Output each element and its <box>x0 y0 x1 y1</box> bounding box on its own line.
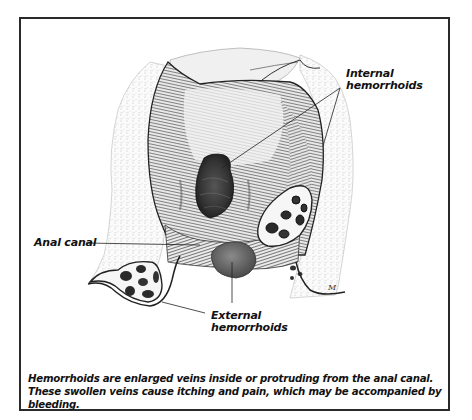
leader-external-2 <box>162 302 205 313</box>
external-hemorrhoid-mass <box>211 242 256 278</box>
anatomical-illustration: M <box>0 0 472 420</box>
label-external-line2: hemorrhoids <box>211 322 288 334</box>
artist-signature: M <box>327 283 337 292</box>
label-external-hemorrhoids: External hemorrhoids <box>211 310 288 334</box>
label-anal-canal: Anal canal <box>34 237 96 249</box>
label-internal-line2: hemorrhoids <box>346 80 423 92</box>
figure-caption: Hemorrhoids are enlarged veins inside or… <box>28 372 442 411</box>
rectum-light-area <box>184 88 284 165</box>
label-internal-hemorrhoids: Internal hemorrhoids <box>346 68 423 92</box>
